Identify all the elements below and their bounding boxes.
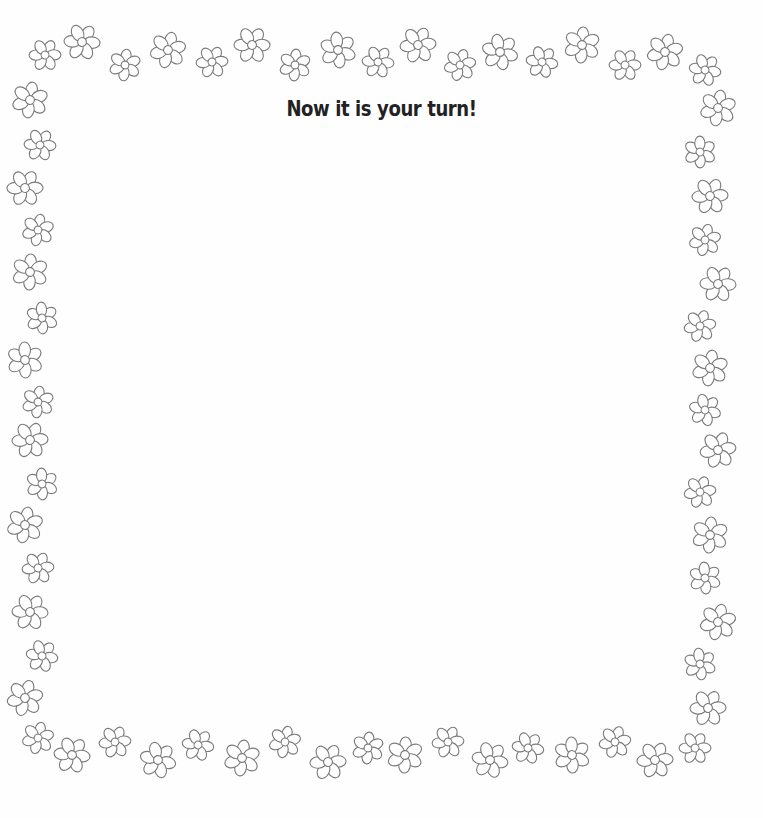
flower-icon [690, 516, 730, 555]
flower-icon [11, 253, 50, 291]
flower-icon [132, 734, 184, 786]
flower-icon [277, 48, 312, 82]
flower-icon [18, 719, 57, 758]
flower-icon [673, 726, 717, 770]
flower-icon [312, 24, 363, 75]
flower-icon [227, 20, 277, 70]
worksheet-page: Now it is your turn! [0, 0, 763, 818]
flower-icon [23, 33, 67, 77]
flower-icon [94, 721, 137, 763]
flower-icon [685, 221, 724, 260]
page-title: Now it is your turn! [69, 96, 695, 121]
flower-icon [696, 600, 741, 644]
flower-icon [427, 721, 470, 764]
flower-icon [19, 211, 57, 248]
flower-icon [18, 123, 63, 168]
flower-icon [603, 43, 647, 87]
flower-icon [440, 45, 481, 85]
flower-icon [16, 547, 59, 590]
flower-icon [3, 504, 46, 547]
flower-icon [630, 736, 679, 785]
flower-icon [175, 722, 220, 767]
flower-icon [350, 731, 385, 766]
flower-icon [5, 416, 54, 465]
flower-icon [9, 79, 51, 121]
flower-icon [394, 21, 443, 69]
flower-icon [693, 259, 744, 309]
flower-icon [46, 730, 97, 781]
blank-drawing-area [70, 140, 685, 720]
flower-icon [19, 633, 64, 678]
flower-icon [0, 163, 50, 213]
flower-icon [683, 683, 733, 732]
flower-icon [190, 40, 233, 83]
flower-icon [685, 172, 734, 221]
flower-icon [519, 39, 564, 84]
flower-icon [386, 736, 425, 774]
flower-icon [679, 306, 720, 347]
flower-icon [0, 335, 50, 385]
flower-icon [682, 47, 727, 92]
flower-icon [547, 730, 597, 781]
flower-icon [689, 347, 731, 388]
flower-icon [594, 722, 635, 763]
flower-icon [5, 587, 56, 637]
flower-icon [679, 471, 721, 512]
flower-icon [303, 738, 352, 787]
flower-icon [20, 384, 56, 420]
flower-icon [355, 40, 400, 85]
flower-icon [57, 17, 108, 67]
flower-icon [682, 387, 728, 433]
flower-icon [265, 723, 304, 762]
flower-icon [107, 47, 143, 83]
flower-icon [697, 87, 740, 129]
flower-icon [20, 462, 64, 507]
flower-icon [643, 30, 688, 74]
flower-icon [221, 738, 263, 779]
flower-icon [2, 675, 48, 720]
flower-icon [694, 427, 741, 474]
flower-icon [20, 296, 65, 341]
flower-icon [464, 734, 516, 785]
flower-icon [474, 26, 526, 78]
flower-icon [146, 28, 191, 72]
flower-icon [562, 26, 602, 65]
flower-icon [505, 725, 550, 770]
flower-icon [683, 556, 728, 601]
